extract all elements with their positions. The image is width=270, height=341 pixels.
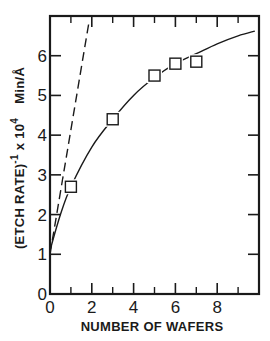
data-point-square [107,114,118,125]
y-axis-title-unit: Min/Å [12,67,27,104]
y-tick-label: 5 [38,86,47,105]
y-axis-title: (ETCH RATE)-1x 104Min/Å [9,67,27,249]
y-tick-label: 0 [38,285,47,304]
data-point-square [149,70,160,81]
fitted-curve [50,31,255,250]
y-axis-title-mult: x 10 [12,124,27,151]
y-tick-label: 2 [38,206,47,225]
x-tick-label: 6 [171,298,180,317]
x-tick-label: 8 [212,298,221,317]
dashed-slope-line [50,24,89,254]
y-tick-labels: 0123456 [38,47,47,304]
y-axis-title-exp: -1 [9,154,20,164]
plot-border [50,16,259,294]
y-tick-label: 1 [38,245,47,264]
data-point-square [170,58,181,69]
x-axis-title: NUMBER OF WAFERS [81,319,224,334]
x-tick-labels: 02468 [45,298,222,317]
y-tick-label: 4 [38,126,47,145]
data-markers [63,54,203,194]
y-tick-label: 6 [38,47,47,66]
data-point-square [65,181,76,192]
etch-rate-chart: 02468 0123456 NUMBER OF WAFERS (ETCH RAT… [0,0,270,341]
x-tick-label: 2 [87,298,96,317]
plot-frame [50,16,259,294]
data-point-square [191,56,202,67]
y-tick-label: 3 [38,166,47,185]
svg-text:(ETCH RATE)-1x 104Min/Å: (ETCH RATE)-1x 104Min/Å [9,67,27,249]
x-tick-label: 4 [129,298,138,317]
axis-ticks [50,16,259,294]
y-axis-title-mult-exp: 4 [9,118,20,124]
series-lines [50,24,255,254]
y-axis-title-main: (ETCH RATE) [12,164,27,249]
